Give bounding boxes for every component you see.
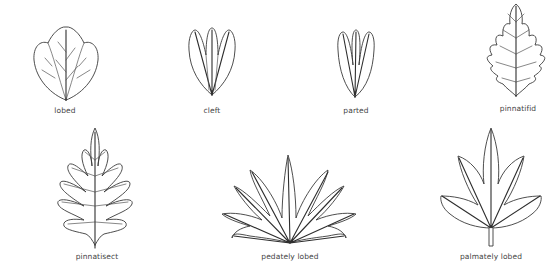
label-lobed: lobed <box>54 106 75 115</box>
parted-leaf-illustration <box>338 30 374 97</box>
label-parted: parted <box>343 106 368 115</box>
pinnatisect-leaf-illustration <box>58 128 132 248</box>
pedately-lobed-leaf-illustration <box>222 155 356 243</box>
pinnatifid-leaf-illustration <box>487 4 545 96</box>
palmately-lobed-leaf-illustration <box>441 128 541 246</box>
label-cleft: cleft <box>204 106 221 115</box>
label-pedately-lobed: pedately lobed <box>261 252 318 261</box>
lobed-leaf-illustration <box>34 27 98 100</box>
label-palmately-lobed: palmately lobed <box>460 252 522 261</box>
leaf-shapes-figure <box>0 0 560 280</box>
cleft-leaf-illustration <box>189 28 235 95</box>
label-pinnatifid: pinnatifid <box>500 104 536 113</box>
label-pinnatisect: pinnatisect <box>76 252 119 261</box>
